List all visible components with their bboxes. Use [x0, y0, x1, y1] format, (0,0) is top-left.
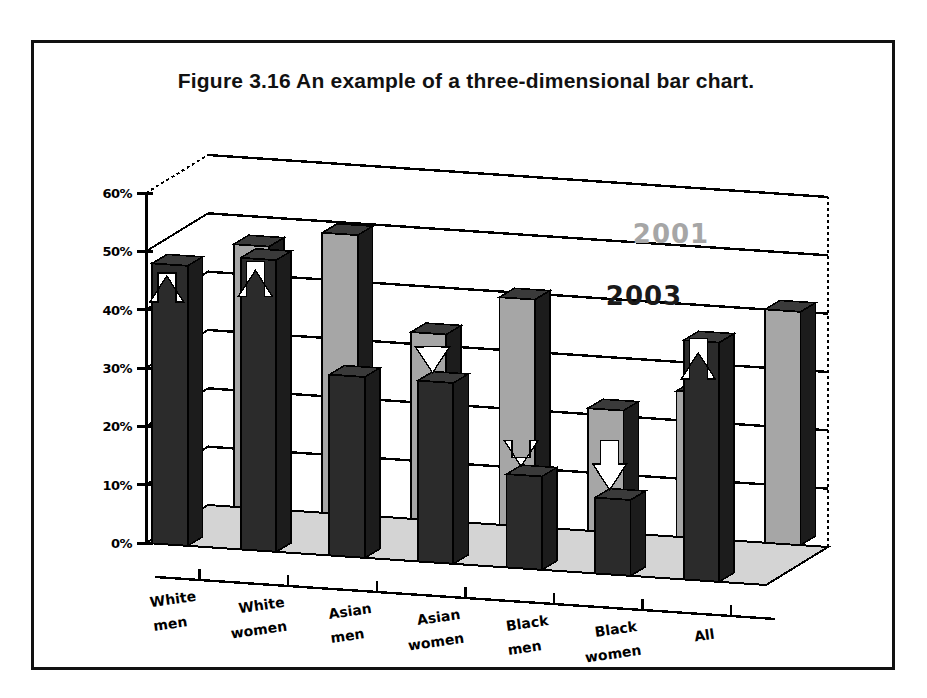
x-axis-label-line2: women [407, 630, 465, 654]
bar-2003-3 [418, 372, 468, 564]
bar-2003-5 [595, 489, 645, 576]
x-axis-label: Blackwomen [581, 618, 643, 665]
legend-label-2001: 2001 [633, 219, 709, 249]
gridline-connector [146, 213, 208, 251]
bar-side-face [630, 491, 645, 576]
y-axis-tick-label: 10% [102, 478, 132, 493]
x-axis-label-line1: Black [505, 612, 550, 634]
x-axis-label: Asianwomen [404, 606, 466, 653]
x-axis-label-line1: All [693, 626, 715, 645]
bar-front-face [241, 258, 276, 552]
x-axis-label: Whitewomen [226, 594, 289, 642]
y-axis-tick-label: 50% [102, 244, 132, 259]
bar-front-face [329, 375, 364, 558]
x-axis-label-line2: women [584, 642, 642, 666]
x-axis-label: Blackmen [503, 612, 553, 658]
x-axis-label: All [693, 626, 715, 645]
bar-side-face [453, 374, 468, 564]
figure-frame: Figure 3.16 An example of a three-dimens… [31, 40, 895, 670]
top-left-depth-edge [146, 155, 208, 193]
bar-2001-6 [765, 300, 815, 545]
x-axis-label-line2: men [507, 637, 543, 658]
bar-front-face [595, 498, 630, 576]
y-axis-tick-label: 20% [102, 419, 132, 434]
bar-front-face [418, 381, 453, 564]
bar-side-face [542, 467, 557, 569]
three-dimensional-bar-chart: 0%10%20%30%40%50%60%WhitemenWhitewomenAs… [34, 43, 898, 673]
bar-front-face [152, 263, 187, 545]
x-axis-label-line1: Asian [327, 600, 372, 622]
bar-front-face [506, 474, 541, 570]
legend-label-2003: 2003 [606, 281, 682, 311]
x-axis-label-line1: White [149, 588, 197, 610]
y-axis-tick-label: 60% [102, 186, 132, 201]
x-axis-label: Whitemen [149, 588, 201, 634]
x-axis-label: Asianmen [326, 600, 376, 646]
bar-side-face [719, 334, 734, 582]
x-axis-label-line2: women [230, 618, 288, 642]
y-axis-tick-label: 30% [102, 361, 132, 376]
bar-side-face [365, 368, 380, 558]
bar-side-face [276, 251, 291, 552]
bar-2003-2 [329, 366, 379, 558]
bar-side-face [801, 303, 816, 545]
x-axis-label-line2: men [152, 613, 188, 634]
bar-front-face [765, 309, 800, 545]
y-axis-tick-label: 40% [102, 303, 132, 318]
x-axis-label-line2: men [329, 625, 365, 646]
x-axis-label-line1: Asian [416, 606, 461, 628]
bar-2003-4 [506, 465, 556, 570]
x-axis-label-line1: Black [594, 618, 639, 640]
figure-page: Figure 3.16 An example of a three-dimens… [0, 0, 927, 698]
x-axis-label-line1: White [237, 594, 285, 616]
bar-side-face [188, 257, 203, 546]
y-axis-tick-label: 0% [111, 536, 133, 551]
